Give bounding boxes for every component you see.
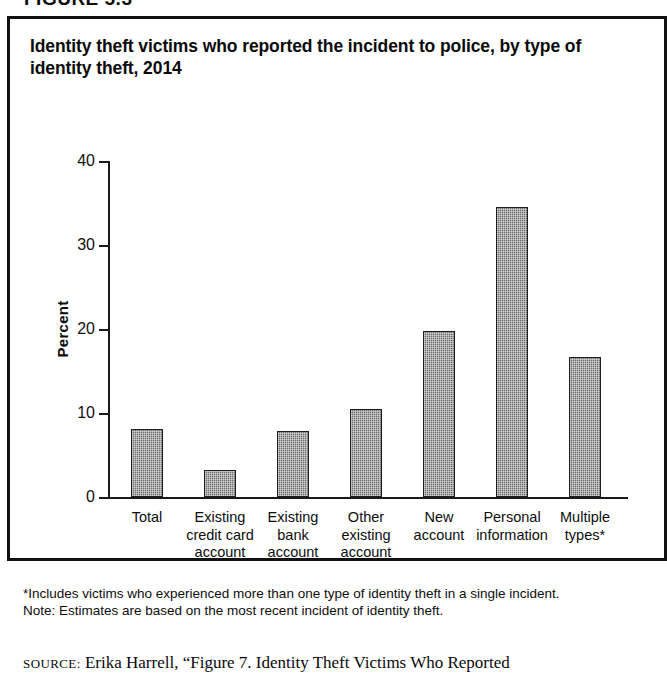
y-tick-mark [99, 329, 108, 331]
bar [569, 357, 601, 497]
y-tick-label: 30 [77, 236, 95, 254]
chart-title: Identity theft victims who reported the … [30, 35, 600, 79]
bar [204, 470, 236, 497]
y-tick-label: 20 [77, 320, 95, 338]
y-axis-line [108, 161, 110, 497]
source-label: SOURCE: [23, 656, 81, 671]
bar [423, 331, 455, 497]
note-text: Note: Estimates are based on the most re… [23, 602, 619, 619]
y-tick-label: 40 [77, 152, 95, 170]
y-tick-mark [99, 245, 108, 247]
figure-box: Identity theft victims who reported the … [7, 16, 667, 561]
x-axis-line [108, 497, 628, 499]
chart-plot-area: Percent 010203040 TotalExistingcredit ca… [108, 161, 628, 497]
bar [277, 431, 309, 497]
x-tick-label-line: Multiple [542, 509, 628, 527]
bar [131, 429, 163, 497]
y-tick-label: 0 [86, 488, 95, 506]
y-tick-label: 10 [77, 404, 95, 422]
y-tick-mark [99, 413, 108, 415]
figure-notes: *Includes victims who experienced more t… [23, 585, 619, 619]
source-text: Erika Harrell, “Figure 7. Identity Theft… [85, 653, 510, 672]
y-axis-title: Percent [54, 300, 71, 357]
footnote-text: *Includes victims who experienced more t… [23, 585, 619, 602]
x-tick-label: Multipletypes* [542, 509, 628, 544]
y-tick-mark [99, 497, 108, 499]
bar [350, 409, 382, 497]
x-tick-label-line: account [323, 544, 409, 562]
x-tick-label-line: types* [542, 527, 628, 545]
figure-number-header: FIGURE 5.3 [24, 0, 132, 10]
y-tick-mark [99, 161, 108, 163]
source-line: SOURCE: Erika Harrell, “Figure 7. Identi… [23, 652, 633, 674]
bar [496, 207, 528, 497]
